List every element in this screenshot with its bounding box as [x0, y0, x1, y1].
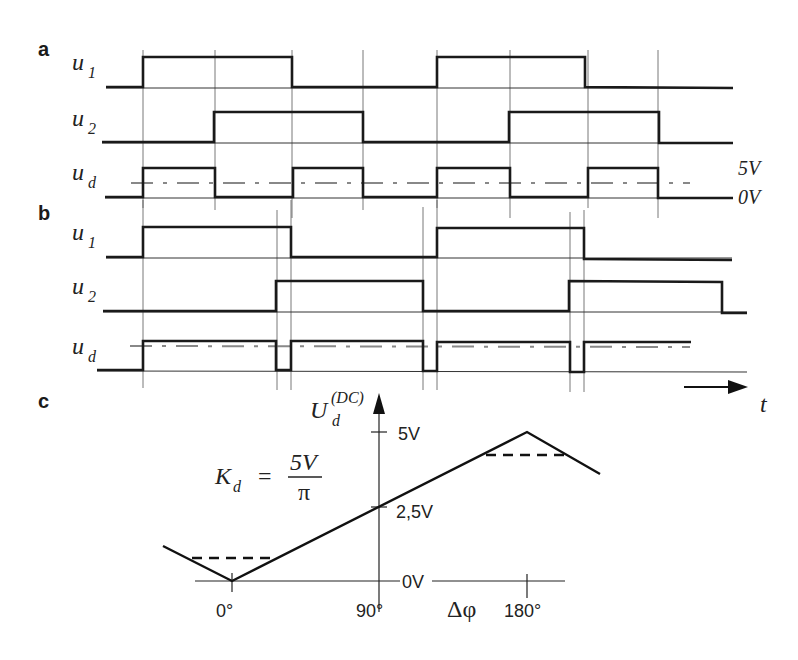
time-label: t — [760, 391, 768, 417]
gain-formula: K d = 5V π — [214, 449, 322, 505]
signal-name: u — [72, 219, 84, 245]
signal-subscript: 2 — [88, 288, 96, 305]
signal-subscript: 2 — [88, 120, 96, 137]
signal-u1-b: u 1 — [72, 219, 732, 260]
x-tick-90deg: 90° — [356, 601, 383, 621]
signal-u1-a: u 1 — [72, 49, 733, 88]
diagram-canvas: a u 1 u 2 u d 5V 0V b — [0, 0, 798, 660]
signal-u2-a: u 2 — [72, 105, 733, 143]
signal-name: u — [72, 273, 84, 299]
signal-subscript: 1 — [88, 234, 96, 251]
y-axis-subscript: d — [332, 412, 341, 429]
y-axis-name: U — [310, 397, 329, 423]
signal-subscript: 1 — [88, 64, 96, 81]
y-tick-2.5v: 2,5V — [396, 502, 433, 522]
dc-level-line — [130, 346, 690, 347]
signal-name: u — [72, 333, 84, 359]
guide-lines-a — [143, 50, 658, 218]
panel-label-b: b — [38, 202, 50, 224]
y-tick-0v-label: 0V — [402, 572, 424, 592]
level-label-5v: 5V — [738, 157, 763, 179]
gain-denominator: π — [298, 479, 310, 505]
gain-subscript: d — [233, 478, 242, 495]
gain-numerator: 5V — [290, 449, 319, 475]
y-tick-5v: 5V — [398, 424, 420, 444]
signal-subscript: d — [88, 348, 97, 365]
x-tick-0deg: 0° — [216, 601, 233, 621]
level-label-0v: 0V — [738, 186, 763, 208]
y-axis-arrowhead — [373, 393, 385, 414]
time-axis-arrow: t — [684, 380, 768, 417]
panel-label-c: c — [38, 390, 49, 412]
x-tick-180deg: 180° — [504, 601, 541, 621]
dc-plot-axes — [195, 393, 565, 612]
equals-sign: = — [258, 463, 272, 489]
gain-symbol: K — [214, 463, 233, 489]
signal-ud-b: u d — [72, 333, 747, 372]
signal-u2-b: u 2 — [72, 273, 747, 313]
phase-detector-diagram: a u 1 u 2 u d 5V 0V b — [0, 0, 798, 660]
x-axis-label-delta-phi: Δφ — [447, 596, 476, 622]
y-axis-superscript: (DC) — [331, 389, 364, 407]
signal-subscript: d — [88, 174, 97, 191]
signal-name: u — [72, 105, 84, 131]
signal-name: u — [72, 159, 84, 185]
y-axis-label: U d (DC) — [310, 389, 364, 429]
panel-label-a: a — [38, 38, 50, 60]
signal-name: u — [72, 49, 84, 75]
signal-ud-a: u d 5V 0V — [72, 157, 763, 208]
